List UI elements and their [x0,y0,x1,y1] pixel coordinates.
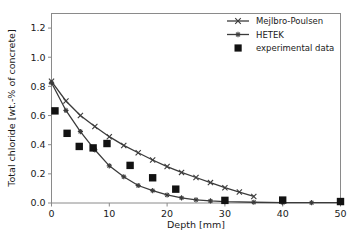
data-point-square [51,107,58,114]
x-axis-ticks [52,203,341,207]
data-point-square [63,130,70,137]
x-tick-label: 20 [161,208,173,219]
data-series-layer [49,79,344,206]
y-tick-label: 0.0 [30,197,45,208]
data-point-square [221,197,228,204]
x-axis-title: Depth [mm] [167,219,225,230]
y-tick-label: 0.4 [30,139,45,150]
y-axis-title: Total chloride [wt.-% of concrete] [6,29,17,187]
data-point-star [208,198,213,203]
x-tick-label: 50 [334,208,346,219]
x-tick-label: 0 [48,208,54,219]
data-point-x [150,157,155,162]
x-tick-label: 40 [277,208,289,219]
chart-figure: 01020304050 0.00.20.40.60.81.01.2 Depth … [0,0,358,242]
series-line [52,83,341,203]
legend-item[interactable]: HETEK [227,30,284,40]
data-point-square [337,198,344,205]
y-tick-label: 0.2 [30,168,45,179]
data-point-star [251,200,256,205]
legend-label: HETEK [256,30,284,40]
legend-item[interactable]: experimental data [235,43,335,53]
data-point-star [235,32,241,38]
data-point-star [309,200,314,205]
data-point-x [107,134,112,139]
x-axis-tick-labels: 01020304050 [48,208,346,219]
data-point-square [279,196,286,203]
data-point-star [78,129,83,134]
x-tick-label: 10 [103,208,115,219]
data-point-square [126,162,133,169]
data-point-x [63,98,68,103]
legend-item[interactable]: Mejlbro-Poulsen [227,16,323,26]
y-tick-label: 0.8 [30,81,45,92]
series-hetek [49,80,343,205]
x-tick-label: 30 [219,208,231,219]
data-point-star [136,183,141,188]
series-experimental-data [51,107,344,205]
data-point-star [121,174,126,179]
data-point-x [92,124,97,129]
y-tick-label: 1.2 [30,22,45,33]
data-point-square [149,174,156,181]
legend-label: experimental data [256,43,334,53]
data-point-square [103,140,110,147]
data-point-star [193,197,198,202]
data-point-square [172,185,179,192]
data-point-square [76,143,83,150]
data-point-star [179,195,184,200]
data-point-star [49,80,54,85]
chart-canvas: 01020304050 0.00.20.40.60.81.01.2 Depth … [0,0,358,242]
plot-frame [52,14,341,204]
legend-label: Mejlbro-Poulsen [256,16,323,26]
y-tick-label: 0.6 [30,110,45,121]
data-point-x [136,150,141,155]
filled-square-marker-icon [235,44,242,51]
data-point-x [78,113,83,118]
y-axis-tick-labels: 0.00.20.40.60.81.01.2 [30,22,45,208]
data-point-x [165,164,170,169]
data-point-star [150,188,155,193]
y-tick-label: 1.0 [30,52,45,63]
chart-legend: Mejlbro-PoulsenHETEKexperimental data [227,16,334,53]
data-point-x [121,143,126,148]
data-point-square [89,144,96,151]
y-axis-ticks [48,28,52,203]
data-point-star [165,192,170,197]
